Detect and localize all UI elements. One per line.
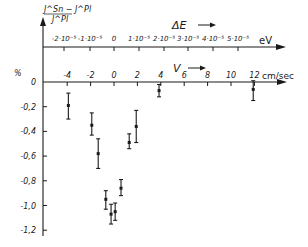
- error-bar-point: [157, 84, 161, 96]
- energy-tick-label: 1·10⁻⁵: [128, 35, 150, 43]
- velocity-unit-label: cm/sec: [262, 71, 294, 81]
- v-title: V: [173, 62, 182, 75]
- chart: J^Sn − J^Pl J^Pl % ΔE eV V cm/sec -2·10⁻…: [0, 0, 308, 247]
- error-bar-point: [96, 139, 100, 169]
- y-tick-label: -0,8: [20, 177, 36, 186]
- y-label-numerator: J^Sn − J^Pl: [42, 5, 92, 14]
- error-bar-point: [127, 134, 131, 149]
- y-tick-label: -0,4: [20, 127, 36, 136]
- error-bar-point: [113, 203, 117, 220]
- error-bar-point: [109, 204, 113, 224]
- energy-tick-label: -2·10⁻⁵: [52, 35, 77, 43]
- velocity-tick-label: 4: [158, 71, 163, 80]
- energy-unit-label: eV: [259, 35, 272, 46]
- energy-tick-label: 2·10⁻⁵: [153, 35, 175, 43]
- velocity-tick-label: 10: [226, 71, 236, 80]
- y-axis-arrow-icon: [40, 17, 46, 26]
- y-label-denominator: J^Pl: [50, 15, 69, 24]
- error-bar-point: [66, 93, 70, 119]
- energy-tick-label: 4·10⁻⁵: [202, 35, 224, 43]
- error-bar-point: [119, 180, 123, 196]
- error-bar-point: [90, 113, 94, 135]
- y-tick-label: -1,2: [20, 226, 36, 235]
- energy-axis-arrow-icon: [276, 44, 286, 50]
- energy-tick-label: -1·10⁻⁵: [78, 35, 103, 43]
- energy-tick-label: 0: [112, 35, 117, 43]
- y-unit-label: %: [14, 69, 22, 78]
- velocity-tick-label: -2: [87, 71, 95, 80]
- velocity-tick-label: -4: [63, 71, 71, 80]
- delta-e-title: ΔE: [171, 19, 187, 32]
- velocity-tick-label: 2: [135, 71, 140, 80]
- error-bar-point: [134, 110, 138, 142]
- energy-tick-label: 3·10⁻⁵: [177, 35, 199, 43]
- data-points: [66, 81, 255, 224]
- y-tick-label: 0: [31, 78, 36, 87]
- error-bar-point: [104, 191, 108, 210]
- energy-tick-label: 5·10⁻⁵: [227, 35, 249, 43]
- y-tick-label: -0,6: [20, 152, 36, 161]
- velocity-tick-label: 0: [111, 71, 116, 80]
- y-tick-label: -1,0: [20, 202, 36, 211]
- velocity-tick-label: 8: [205, 71, 210, 80]
- velocity-tick-label: 12: [249, 71, 259, 80]
- energy-ticks: -2·10⁻⁵-1·10⁻⁵01·10⁻⁵2·10⁻⁵3·10⁻⁵4·10⁻⁵5…: [52, 35, 250, 51]
- velocity-ticks: -4-2024681012: [63, 71, 259, 86]
- y-tick-label: -0,2: [20, 103, 36, 112]
- velocity-tick-label: 6: [182, 71, 187, 80]
